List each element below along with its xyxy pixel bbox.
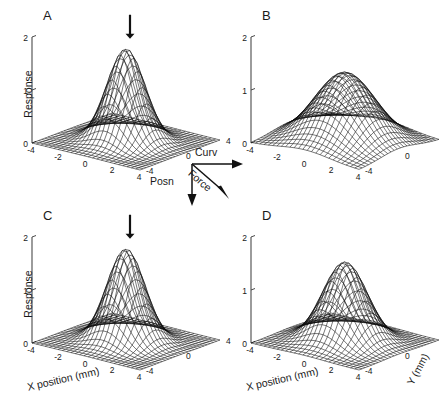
z-tick-label: 2	[242, 233, 247, 243]
z-tick-label: 2	[23, 33, 28, 43]
panel-letter-c: C	[43, 208, 52, 223]
x-tick-label: 4	[356, 372, 361, 382]
panel-letter-a: A	[43, 8, 52, 23]
y-tick-label: 0	[186, 351, 191, 361]
vector-legend: Curv Posn Force	[170, 150, 280, 212]
surface-plot-d: 012-4-202440-4X position (mm)Y (mm)	[219, 202, 439, 402]
x-tick-label: 2	[329, 365, 334, 375]
y-tick-label: -4	[146, 166, 154, 176]
x-tick-label: -2	[54, 152, 62, 162]
x-tick-label: 0	[83, 159, 88, 169]
posn-arrow-head	[188, 194, 197, 206]
figure-canvas: A Response 012-4-202440-4 B 012-4-202440…	[0, 0, 439, 402]
z-tick-label: 1	[242, 86, 247, 96]
x-tick-label: -4	[27, 345, 35, 355]
legend-label-posn: Posn	[150, 175, 174, 187]
z-tick-label: 1	[242, 286, 247, 296]
axis-label-x-position: X position (mm)	[245, 364, 319, 392]
x-tick-label: 2	[110, 165, 115, 175]
vector-legend-arrows	[170, 150, 280, 212]
x-tick-label: 0	[302, 159, 307, 169]
x-tick-label: 4	[137, 372, 142, 382]
z-tick-label: 2	[23, 233, 28, 243]
peak-marker-arrow	[126, 215, 135, 239]
force-arrow-head	[218, 186, 230, 200]
y-tick-label: -4	[146, 366, 154, 376]
y-tick-label: 0	[405, 151, 410, 161]
panel-d: D 012-4-202440-4X position (mm)Y (mm)	[219, 202, 439, 402]
x-tick-label: 2	[110, 365, 115, 375]
axis-label-response-a: Response	[22, 59, 34, 129]
panel-letter-b: B	[262, 8, 271, 23]
x-tick-label: 2	[329, 165, 334, 175]
curv-arrow-head	[232, 160, 243, 169]
axis-label-response-c: Response	[22, 259, 34, 329]
x-tick-label: 4	[137, 172, 142, 182]
x-tick-label: -4	[246, 345, 254, 355]
x-tick-label: -2	[54, 352, 62, 362]
peak-marker-arrow	[126, 15, 135, 39]
z-tick-label: 2	[242, 33, 247, 43]
panel-c: C Response 012-4-202440-4X position (mm)	[0, 202, 220, 402]
legend-label-curv: Curv	[195, 146, 217, 158]
x-tick-label: -2	[273, 352, 281, 362]
y-tick-label: -4	[365, 366, 373, 376]
axis-label-x-position: X position (mm)	[26, 364, 100, 392]
y-tick-label: -4	[365, 166, 373, 176]
y-tick-label: 0	[405, 351, 410, 361]
x-tick-label: 4	[356, 172, 361, 182]
x-tick-label: -4	[27, 145, 35, 155]
